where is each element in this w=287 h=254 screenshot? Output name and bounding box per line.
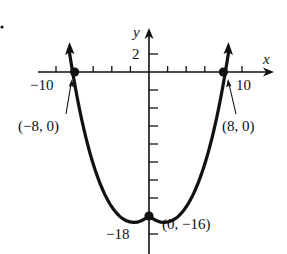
parabola-graph: y x 2 −10 10 (−8, 0) (8, 0) (0, −16) −18 <box>0 0 287 254</box>
point-label-vertex: (0, −16) <box>162 216 210 233</box>
y-tick-label-2: 2 <box>132 46 140 62</box>
leader-left <box>66 79 74 114</box>
leader-right <box>226 79 236 114</box>
y-ticks <box>149 54 158 234</box>
x-tick-label-neg10: −10 <box>30 77 53 93</box>
point-left-intercept <box>70 67 79 76</box>
point-label-left: (−8, 0) <box>18 118 59 135</box>
point-vertex <box>144 211 153 220</box>
x-axis-label: x <box>262 51 270 67</box>
y-tick-label-neg18: −18 <box>106 226 129 242</box>
point-right-intercept <box>219 67 228 76</box>
problem-number-dot <box>0 25 3 28</box>
point-label-right: (8, 0) <box>222 118 255 135</box>
y-axis-label: y <box>131 24 140 40</box>
x-tick-label-10: 10 <box>236 77 251 93</box>
